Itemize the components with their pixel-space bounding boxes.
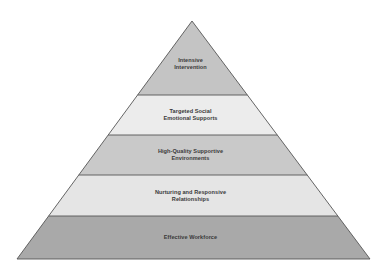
pyramid-shape <box>0 0 381 272</box>
layer-label-line2: Environments <box>0 155 381 162</box>
layer-label-line1: Nurturing and Responsive <box>0 189 381 196</box>
layer-label-responsive-relationships: Nurturing and Responsive Relationships <box>0 189 381 203</box>
layer-label-line1: High-Quality Supportive <box>0 148 381 155</box>
layer-label-line1: Intensive <box>0 57 381 64</box>
layer-label-intensive-intervention: Intensive Intervention <box>0 57 381 71</box>
layer-label-line1: Effective Workforce <box>0 234 381 241</box>
layer-label-targeted-supports: Targeted Social Emotional Supports <box>0 108 381 122</box>
layer-label-line2: Intervention <box>0 64 381 71</box>
layer-label-line2: Relationships <box>0 196 381 203</box>
layer-label-effective-workforce: Effective Workforce <box>0 234 381 241</box>
layer-label-line1: Targeted Social <box>0 108 381 115</box>
layer-label-supportive-environments: High-Quality Supportive Environments <box>0 148 381 162</box>
pyramid-diagram: Intensive Intervention Targeted Social E… <box>0 0 381 272</box>
layer-label-line2: Emotional Supports <box>0 115 381 122</box>
